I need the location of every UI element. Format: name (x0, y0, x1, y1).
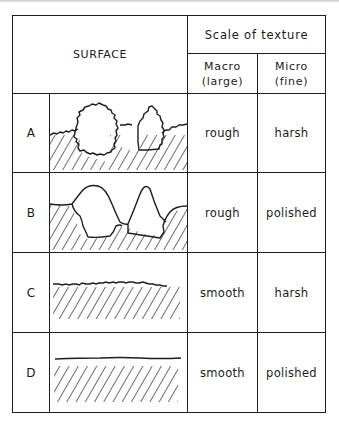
micro-value: harsh (258, 94, 326, 173)
surface-texture-table: SURFACE Scale of texture Macro (large) M… (12, 15, 326, 413)
surface-drawing-b (50, 173, 188, 253)
surface-header: SURFACE (13, 16, 188, 94)
macro-value: smooth (188, 333, 258, 413)
scale-of-texture-header: Scale of texture (188, 16, 326, 54)
macro-value: rough (188, 173, 258, 253)
micro-header-line2: (fine) (258, 74, 325, 89)
table-row: B rough polished (13, 173, 326, 253)
surface-drawing-d (50, 333, 188, 413)
table-row: C smooth harsh (13, 253, 326, 333)
rough-jagged-surface-illustration (50, 95, 187, 172)
micro-value: harsh (258, 253, 326, 333)
rough-smooth-surface-illustration (50, 174, 187, 252)
table-row: D smooth polished (13, 333, 326, 413)
macro-header-line1: Macro (188, 59, 257, 74)
macro-header-line2: (large) (188, 74, 257, 89)
micro-value: polished (258, 173, 326, 253)
row-label: B (13, 173, 50, 253)
macro-value: rough (188, 94, 258, 173)
micro-header-line1: Micro (258, 59, 325, 74)
row-label: A (13, 94, 50, 173)
smooth-polished-surface-illustration (50, 334, 187, 412)
macro-header: Macro (large) (188, 54, 258, 94)
table-row: A rough harsh (13, 94, 326, 173)
macro-value: smooth (188, 253, 258, 333)
surface-drawing-c (50, 253, 188, 333)
surface-drawing-a (50, 94, 188, 173)
row-label: C (13, 253, 50, 333)
row-label: D (13, 333, 50, 413)
micro-header: Micro (fine) (258, 54, 326, 94)
scan-edge-shade (0, 0, 339, 3)
smooth-jagged-surface-illustration (50, 254, 187, 332)
micro-value: polished (258, 333, 326, 413)
